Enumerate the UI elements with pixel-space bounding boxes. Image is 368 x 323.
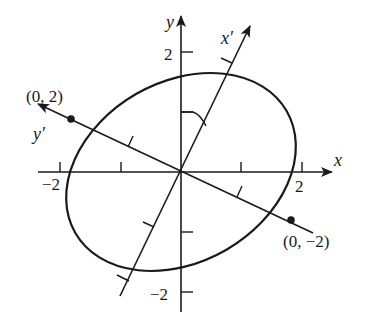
y-tick-label-minus-2: −2 <box>150 285 168 304</box>
y-prime-axis-label: y′ <box>31 124 46 144</box>
x-tick-label-2: 2 <box>295 177 304 196</box>
y-tick-label-2: 2 <box>164 45 173 64</box>
x-axis-label: x <box>333 150 342 170</box>
x-prime-axis <box>117 26 250 296</box>
x-prime-tick-2 <box>221 58 232 63</box>
x-prime-tick-minus-1 <box>143 222 154 227</box>
y-prime-tick-minus-1 <box>237 186 242 197</box>
x-prime-tick-minus-2 <box>117 275 129 281</box>
point-0-minus-2 <box>287 216 295 224</box>
y-axis-label: y <box>164 12 174 32</box>
x-prime-axis-label: x′ <box>220 28 234 48</box>
x-axis <box>38 162 332 172</box>
y-prime-tick-1 <box>128 136 133 147</box>
x-tick-label-minus-2: −2 <box>42 175 60 194</box>
point-label-0-2: (0, 2) <box>26 87 63 106</box>
y-prime-axis <box>38 104 313 233</box>
point-label-0-minus-2: (0, −2) <box>283 232 329 251</box>
point-0-2 <box>67 115 75 123</box>
rotated-ellipse-diagram: y x′ x y′ 2 −2 −2 2 (0, 2) (0, −2) <box>0 0 368 323</box>
